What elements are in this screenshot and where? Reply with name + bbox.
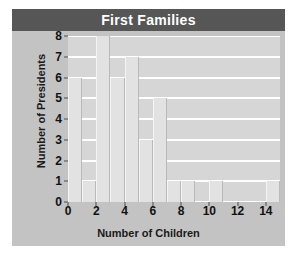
chart-panel: First Families Number of Presidents Numb… — [12, 9, 285, 246]
x-tick-mark — [152, 202, 154, 206]
y-tick-label: 1 — [42, 175, 62, 187]
bar — [167, 181, 181, 202]
bar — [181, 181, 195, 202]
x-tick-label: 2 — [84, 205, 108, 217]
x-tick-label: 10 — [197, 205, 221, 217]
chart-figure: First Families Number of Presidents Numb… — [0, 0, 297, 258]
y-tick-label: 3 — [42, 134, 62, 146]
y-tick-label: 4 — [42, 113, 62, 125]
bar — [110, 78, 124, 203]
x-tick-mark — [180, 202, 182, 206]
y-tick-label: 5 — [42, 92, 62, 104]
bar — [68, 78, 82, 203]
x-tick-mark — [95, 202, 97, 206]
chart-title: First Families — [101, 12, 195, 28]
x-tick-label: 6 — [141, 205, 165, 217]
y-tick-label: 6 — [42, 72, 62, 84]
x-tick-label: 4 — [113, 205, 137, 217]
bar — [266, 181, 280, 202]
bar — [82, 181, 96, 202]
x-tick-label: 0 — [56, 205, 80, 217]
bar — [96, 36, 110, 202]
x-axis-title: Number of Children — [12, 227, 285, 239]
x-tick-label: 14 — [254, 205, 278, 217]
bar — [209, 181, 223, 202]
y-tick-label: 7 — [42, 51, 62, 63]
bar — [153, 98, 167, 202]
bar — [139, 140, 153, 202]
chart-title-bar: First Families — [12, 9, 285, 31]
y-tick-label: 2 — [42, 155, 62, 167]
x-tick-mark — [237, 202, 239, 206]
bar — [125, 57, 139, 202]
y-tick-label: 8 — [42, 30, 62, 42]
x-tick-mark — [208, 202, 210, 206]
x-tick-mark — [67, 202, 69, 206]
x-tick-label: 12 — [226, 205, 250, 217]
x-tick-label: 8 — [169, 205, 193, 217]
x-tick-mark — [124, 202, 126, 206]
plot-area — [68, 36, 280, 202]
x-tick-mark — [265, 202, 267, 206]
